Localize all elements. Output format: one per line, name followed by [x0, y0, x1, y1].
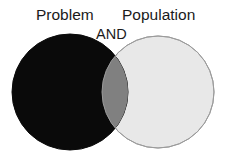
set-label-problem: Problem — [36, 7, 94, 23]
venn-diagram-canvas: Problem Population AND — [0, 0, 232, 157]
intersection-label-and: AND — [96, 27, 127, 42]
set-label-population: Population — [122, 7, 195, 23]
venn-diagram-graphic — [0, 0, 232, 157]
